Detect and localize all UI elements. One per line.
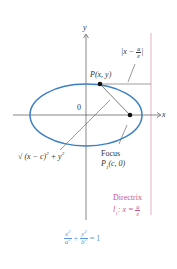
origin-label: 0 [77, 104, 81, 112]
directrix-equation: l1: x = ae [113, 204, 140, 217]
leader-focus-label [119, 125, 127, 144]
point-p-label: P(x, y) [90, 71, 111, 79]
distance-to-directrix-label: |x − ae| [121, 46, 143, 59]
distance-to-focus-label: √ (x − c)2 + y2 [18, 153, 64, 161]
ellipse-equation: x2a2 + y2b2 = 1 [64, 231, 100, 247]
leader-directrix-distance [128, 64, 135, 82]
leader-focus-distance [60, 100, 110, 150]
directrix-title: Directrix [113, 194, 142, 202]
focus-point [128, 113, 133, 118]
focus-coordinates: P1(c, 0) [101, 160, 125, 168]
focus-title: Focus [101, 150, 120, 158]
y-axis-label: y [83, 24, 87, 32]
x-axis-label: x [162, 111, 166, 119]
ellipse-diagram [0, 0, 177, 269]
point-p [98, 82, 103, 87]
